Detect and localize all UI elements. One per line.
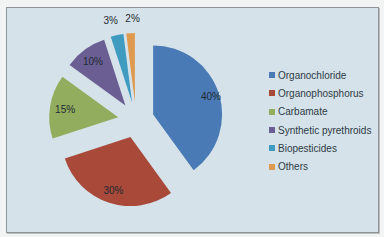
legend-swatch-icon [269, 164, 275, 170]
chart-legend: Organochloride Organophosphorus Carbamat… [269, 66, 371, 176]
legend-label: Organophosphorus [278, 88, 364, 99]
legend-item: Others [269, 157, 371, 175]
legend-item: Organophosphorus [269, 84, 371, 102]
legend-swatch-icon [269, 72, 275, 78]
legend-item: Carbamate [269, 103, 371, 121]
legend-label: Synthetic pyrethroids [278, 125, 371, 136]
legend-label: Organochloride [278, 70, 346, 81]
slice-percent-label: 40% [201, 91, 221, 102]
legend-swatch-icon [269, 109, 275, 115]
legend-item: Organochloride [269, 66, 371, 84]
legend-swatch-icon [269, 127, 275, 133]
pie-slice-organophosphorus [65, 137, 171, 206]
slice-percent-label: 2% [125, 13, 140, 24]
legend-item: Synthetic pyrethroids [269, 121, 371, 139]
legend-item: Biopesticides [269, 139, 371, 157]
legend-label: Others [278, 161, 308, 172]
pie-slice-organochloride [153, 45, 222, 170]
legend-swatch-icon [269, 90, 275, 96]
slice-percent-label: 3% [103, 15, 118, 26]
slice-percent-label: 15% [55, 104, 75, 115]
legend-label: Biopesticides [278, 143, 337, 154]
slice-percent-label: 30% [103, 185, 123, 196]
legend-swatch-icon [269, 145, 275, 151]
slice-percent-label: 10% [83, 56, 103, 67]
legend-label: Carbamate [278, 106, 327, 117]
